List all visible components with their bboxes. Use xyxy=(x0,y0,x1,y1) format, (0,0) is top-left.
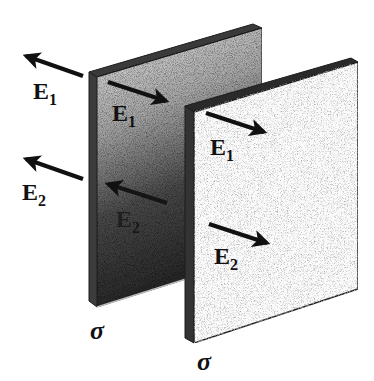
sigma-label-front: σ xyxy=(197,347,212,376)
front-plate xyxy=(185,58,358,343)
arrow-e2-outer-left xyxy=(26,159,83,179)
diagram-canvas: E1 E2 E1 E2 E1 E2 σ σ xyxy=(0,0,374,381)
label-e2-outer-left: E2 xyxy=(22,179,46,209)
front-plate-face xyxy=(194,62,358,343)
front-plate-left-edge xyxy=(185,106,194,343)
sigma-label-back: σ xyxy=(90,316,105,345)
arrow-e1-outer-left xyxy=(26,56,83,76)
label-e1-outer-left: E1 xyxy=(33,78,57,108)
back-plate-left-edge xyxy=(89,72,97,307)
